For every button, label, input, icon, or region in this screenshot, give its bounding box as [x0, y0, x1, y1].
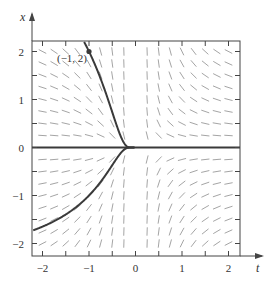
slope-segment: [50, 86, 58, 89]
slope-segment: [86, 84, 91, 91]
slope-segment: [179, 204, 184, 211]
slope-segment: [85, 134, 93, 136]
slope-segment: [191, 217, 197, 223]
slope-segment: [99, 59, 101, 67]
slope-segment: [39, 230, 47, 233]
slope-segment: [38, 135, 46, 136]
slope-segment: [225, 86, 233, 89]
slope-segment: [112, 215, 113, 223]
slope-segment: [180, 216, 185, 223]
slope-segment: [75, 228, 80, 234]
slope-segment: [158, 215, 159, 223]
slope-segment: [190, 110, 198, 114]
slope-segment: [111, 203, 113, 211]
slope-segment: [39, 218, 47, 221]
slope-field-chart: −2−2−1−1001122 (−1, 2) t x: [0, 0, 278, 283]
slope-segment: [190, 85, 196, 90]
slope-segment: [38, 123, 46, 124]
slope-segment: [156, 132, 162, 138]
slope-segment: [74, 193, 81, 198]
x-tick-label: 1: [19, 94, 25, 106]
slope-segment: [62, 171, 70, 173]
slope-segment: [73, 122, 81, 125]
slope-segment: [112, 59, 113, 67]
slope-segment: [39, 74, 47, 77]
slope-segment: [225, 206, 233, 209]
slope-segment: [213, 98, 221, 101]
slope-segment: [179, 109, 186, 114]
slope-segment: [39, 242, 46, 246]
slope-segment: [156, 156, 162, 162]
slope-segment: [74, 97, 81, 102]
slope-segment: [62, 110, 70, 113]
slope-segment: [180, 48, 184, 56]
slope-segment: [213, 49, 220, 54]
slope-segment: [50, 135, 58, 136]
slope-segment: [62, 85, 69, 89]
slope-segment: [213, 61, 220, 65]
slope-segment: [169, 204, 172, 212]
slope-segment: [168, 180, 173, 187]
slope-segment: [167, 169, 173, 175]
slope-segment: [99, 216, 102, 224]
slope-segment: [191, 73, 197, 79]
slope-segment: [98, 121, 104, 127]
slope-segment: [224, 171, 232, 172]
slope-segment: [158, 95, 160, 103]
slope-segment: [178, 170, 185, 174]
slope-segment: [213, 194, 221, 197]
slope-segment: [191, 60, 196, 66]
slope-segment: [111, 191, 113, 199]
slope-segment: [62, 159, 70, 160]
slope-segment: [213, 241, 220, 246]
slope-segment: [202, 85, 209, 89]
slope-segment: [38, 171, 46, 172]
upper-solution-curve: [84, 42, 134, 148]
slope-segment: [124, 107, 125, 115]
slope-segment: [38, 111, 46, 113]
slope-segment: [85, 158, 93, 160]
slope-segment: [213, 159, 221, 160]
lower-solution-curve: [33, 148, 134, 231]
slope-segment: [109, 132, 115, 138]
slope-segment: [87, 228, 91, 235]
slope-segment: [147, 95, 148, 103]
slope-segment: [86, 204, 91, 211]
slope-segment: [168, 192, 172, 199]
slope-segment: [178, 122, 185, 126]
slope-segment: [157, 120, 161, 128]
slope-segment: [39, 50, 46, 54]
slope-segment: [124, 95, 125, 103]
slope-segment: [157, 168, 161, 176]
slope-segment: [179, 84, 184, 91]
slope-segment: [158, 59, 159, 67]
slope-segment: [213, 206, 221, 209]
slope-segment: [87, 216, 92, 223]
slope-segment: [62, 205, 69, 209]
slope-segment: [201, 98, 209, 102]
slope-segment: [62, 194, 70, 198]
slope-segment: [168, 108, 173, 115]
slope-segment: [179, 181, 186, 186]
slope-segment: [62, 123, 70, 125]
slope-segment: [202, 205, 209, 209]
slope-segment: [86, 109, 93, 114]
slope-segment: [201, 159, 209, 160]
slope-segment: [213, 123, 221, 124]
slope-segment: [169, 84, 172, 92]
slope-segment: [124, 179, 125, 187]
slope-segment: [112, 227, 113, 235]
slope-segment: [213, 135, 221, 136]
slope-segment: [213, 74, 220, 78]
slope-segment: [169, 72, 172, 80]
slope-segment: [74, 85, 80, 90]
slope-segment: [191, 228, 196, 234]
slope-segment: [202, 241, 208, 247]
slope-segment: [169, 47, 171, 55]
slope-segment: [38, 183, 46, 185]
slope-segment: [62, 73, 69, 78]
t-tick-label: −2: [37, 262, 49, 274]
slope-segment: [158, 227, 159, 235]
slope-segment: [112, 71, 113, 79]
slope-segment: [51, 241, 58, 246]
